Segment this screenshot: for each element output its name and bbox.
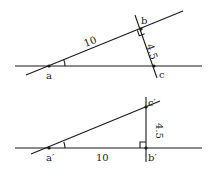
label-leg-length: 4.5: [154, 123, 165, 139]
label-base-length: 10: [96, 152, 109, 163]
triangle-diagram: a b c 10 4.5 a′ c′ b′ 10 4.5: [0, 0, 217, 176]
label-leg-length: 4.5: [144, 42, 160, 61]
label-a: a: [46, 70, 52, 81]
point-c: [152, 64, 155, 67]
bottom-slanted-line: [31, 101, 160, 154]
point-a-prime: [47, 146, 50, 149]
point-a: [47, 64, 50, 67]
point-b-prime: [144, 146, 147, 149]
angle-arc-icon: [64, 142, 65, 148]
label-a-prime: a′: [46, 152, 55, 163]
bottom-figure: a′ c′ b′ 10 4.5: [15, 97, 202, 163]
point-b: [139, 27, 142, 30]
angle-arc-icon: [64, 60, 65, 66]
label-b: b: [141, 15, 147, 26]
label-b-prime: b′: [148, 152, 157, 163]
label-c-prime: c′: [148, 97, 157, 108]
label-c: c: [159, 69, 165, 80]
top-figure: a b c 10 4.5: [15, 11, 202, 81]
